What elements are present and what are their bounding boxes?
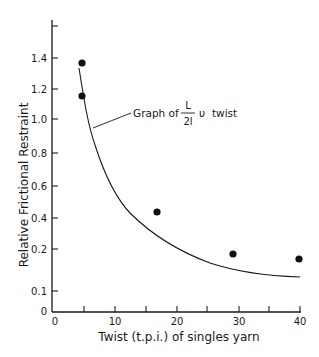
x-tick-label: 0	[52, 316, 58, 327]
y-tick-label: 1.4	[31, 53, 47, 64]
x-tick-labels: 0 10 20 30 40	[52, 316, 307, 327]
annotation-leader-line	[93, 113, 131, 128]
x-ticks	[84, 306, 300, 312]
y-ticks	[52, 26, 58, 291]
y-tick-label: 0.4	[31, 213, 47, 224]
chart: 1.4 1.2 1.0 0.8 0.6 0.4 0.2 0.1 0 0 10 2…	[0, 0, 319, 357]
x-tick-label: 40	[294, 316, 307, 327]
data-point	[229, 250, 236, 257]
annotation-text-after: twist	[212, 107, 237, 119]
data-point	[78, 92, 85, 99]
y-tick-labels: 1.4 1.2 1.0 0.8 0.6 0.4 0.2 0.1 0	[31, 53, 47, 317]
y-tick-label: 0.8	[31, 148, 47, 159]
fraction-denominator: 2l	[183, 116, 192, 127]
x-axis-title: Twist (t.p.i.) of singles yarn	[97, 330, 259, 344]
y-tick-label: 1.0	[31, 114, 47, 125]
y-tick-label: 0	[41, 306, 47, 317]
fraction-numerator: L	[185, 100, 191, 111]
y-tick-label: 0.1	[31, 286, 47, 297]
data-points	[78, 59, 302, 262]
data-point	[153, 208, 160, 215]
x-tick-label: 20	[171, 316, 184, 327]
y-tick-label: 1.2	[31, 84, 47, 95]
x-tick-label: 30	[233, 316, 246, 327]
annotation-text-before: Graph of	[133, 107, 179, 119]
y-tick-label: 0.6	[31, 181, 47, 192]
data-point	[295, 255, 302, 262]
annotation-symbol: υ	[199, 107, 205, 119]
x-tick-label: 10	[109, 316, 122, 327]
y-axis-title: Relative Frictional Restraint	[17, 102, 31, 267]
y-tick-label: 0.2	[31, 244, 47, 255]
curve-annotation: Graph of L 2l υ twist	[133, 100, 237, 127]
data-point	[78, 59, 85, 66]
